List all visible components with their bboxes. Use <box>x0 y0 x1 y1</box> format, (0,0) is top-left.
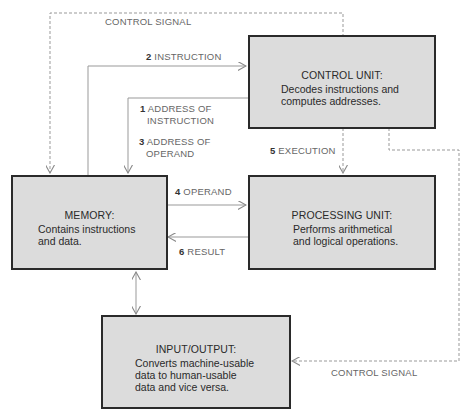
result-step-number: 6 <box>179 246 184 257</box>
execution-step-number: 5 <box>270 145 275 156</box>
address-of-operand-step-number: 3 <box>139 136 144 147</box>
address-of-operand-text: ADDRESS OF <box>147 136 211 147</box>
io-title: INPUT/OUTPUT: <box>103 343 289 355</box>
address-of-instruction-text: INSTRUCTION <box>140 115 214 127</box>
operand-step-number: 4 <box>175 186 180 197</box>
result-text: RESULT <box>187 246 225 257</box>
control-unit-desc: Decodes instructions and computes addres… <box>281 83 399 107</box>
address-of-instruction-label: 1 ADDRESS OF INSTRUCTION <box>140 103 214 127</box>
processing-unit-desc-line: Performs arithmetical <box>293 223 398 235</box>
memory-box: MEMORY: Contains instructions and data. <box>11 175 168 270</box>
io-desc-line: data to human-usable <box>135 369 254 381</box>
io-desc: Converts machine-usable data to human-us… <box>135 357 254 393</box>
control-unit-desc-line: computes addresses. <box>281 95 399 107</box>
control-signal-top-label: CONTROL SIGNAL <box>105 16 191 27</box>
control-unit-title: CONTROL UNIT: <box>250 69 434 81</box>
control-unit-box: CONTROL UNIT: Decodes instructions and c… <box>248 35 436 129</box>
processing-unit-desc: Performs arithmetical and logical operat… <box>293 223 398 247</box>
address-of-operand-label: 3 ADDRESS OF OPERAND <box>139 136 211 160</box>
control-signal-bottom-label: CONTROL SIGNAL <box>331 367 417 378</box>
instruction-text: INSTRUCTION <box>154 51 221 62</box>
memory-desc: Contains instructions and data. <box>38 223 135 247</box>
address-of-instruction-step-number: 1 <box>140 103 145 114</box>
operand-label: 4 OPERAND <box>175 186 232 197</box>
processing-unit-desc-line: and logical operations. <box>293 235 398 247</box>
result-label: 6 RESULT <box>179 246 225 257</box>
execution-label: 5 EXECUTION <box>270 145 336 156</box>
control-unit-desc-line: Decodes instructions and <box>281 83 399 95</box>
address-of-instruction-text: ADDRESS OF <box>148 103 212 114</box>
memory-desc-line: Contains instructions <box>38 223 135 235</box>
io-desc-line: Converts machine-usable <box>135 357 254 369</box>
instruction-label: 2 INSTRUCTION <box>146 51 221 62</box>
processing-unit-box: PROCESSING UNIT: Performs arithmetical a… <box>248 175 436 270</box>
io-box: INPUT/OUTPUT: Converts machine-usable da… <box>101 315 291 409</box>
processing-unit-title: PROCESSING UNIT: <box>250 209 434 221</box>
instruction-step-number: 2 <box>146 51 151 62</box>
address-of-operand-text: OPERAND <box>139 148 211 160</box>
memory-title: MEMORY: <box>13 209 166 221</box>
operand-text: OPERAND <box>183 186 231 197</box>
memory-desc-line: and data. <box>38 235 135 247</box>
io-desc-line: data and vice versa. <box>135 381 254 393</box>
execution-text: EXECUTION <box>278 145 335 156</box>
